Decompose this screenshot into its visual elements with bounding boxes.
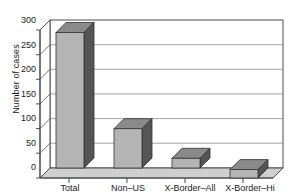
left-side-wall (40, 20, 50, 178)
y-axis (36, 30, 40, 178)
x-tick-label: X-Border–All (164, 183, 215, 193)
x-tick-label: Non–US (111, 183, 145, 193)
x-tick-label: Total (60, 183, 79, 193)
bar-chart: Number of cases 0 50 100 150 200 250 300 (0, 0, 297, 193)
bar-non-us (114, 119, 152, 168)
x-tick-label: X-Border–Hi (225, 183, 275, 193)
bar-total (56, 23, 94, 169)
plot-area (0, 0, 297, 193)
